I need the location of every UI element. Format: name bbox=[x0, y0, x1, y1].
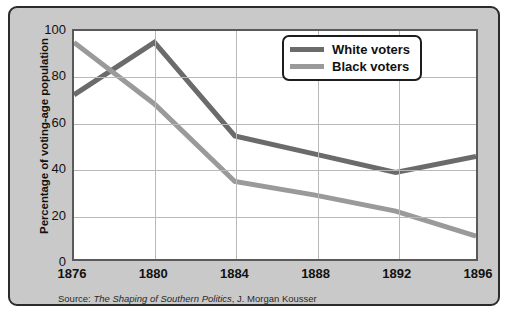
legend-label: Black voters bbox=[332, 59, 409, 74]
y-axis-tick: 80 bbox=[20, 68, 66, 83]
x-axis-tick: 1876 bbox=[37, 266, 107, 281]
chart-figure: Percentage of voting-age population 0204… bbox=[0, 0, 508, 318]
gridline-horizontal bbox=[74, 217, 476, 218]
x-axis-tick: 1880 bbox=[118, 266, 188, 281]
legend-item: Black voters bbox=[290, 58, 410, 75]
gridline-horizontal bbox=[74, 124, 476, 125]
chart-panel: Percentage of voting-age population 0204… bbox=[8, 6, 500, 306]
x-axis-tick: 1884 bbox=[199, 266, 269, 281]
source-suffix: , J. Morgan Kousser bbox=[232, 293, 317, 304]
legend-swatch bbox=[290, 47, 324, 52]
x-axis-tick: 1892 bbox=[362, 266, 432, 281]
legend-label: White voters bbox=[332, 42, 410, 57]
y-axis-tick: 60 bbox=[20, 114, 66, 129]
legend-item: White voters bbox=[290, 41, 410, 58]
y-axis-tick: 20 bbox=[20, 207, 66, 222]
x-axis-tick: 1888 bbox=[281, 266, 351, 281]
gridline-vertical bbox=[236, 31, 237, 259]
x-axis-tick-labels: 187618801884188818921896 bbox=[72, 266, 478, 286]
y-axis-tick: 100 bbox=[20, 22, 66, 37]
gridline-vertical bbox=[155, 31, 156, 259]
chart-legend: White votersBlack voters bbox=[282, 35, 422, 81]
x-axis-tick: 1896 bbox=[443, 266, 508, 281]
legend-swatch bbox=[290, 64, 324, 69]
source-prefix: Source: bbox=[58, 293, 93, 304]
y-axis-tick: 40 bbox=[20, 161, 66, 176]
source-note: Source: The Shaping of Southern Politics… bbox=[58, 293, 317, 304]
source-title: The Shaping of Southern Politics bbox=[93, 293, 231, 304]
gridline-horizontal bbox=[74, 170, 476, 171]
y-axis-tick-labels: 020406080100 bbox=[18, 29, 66, 261]
